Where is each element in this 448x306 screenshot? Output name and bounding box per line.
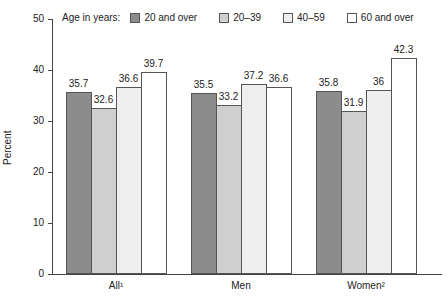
y-tick — [48, 121, 52, 122]
bar — [241, 84, 267, 274]
y-tick — [48, 172, 52, 173]
bar-value-label: 35.8 — [309, 77, 349, 88]
y-tick-label: 10 — [22, 217, 44, 228]
bar — [91, 108, 117, 274]
legend-swatch — [219, 13, 229, 23]
legend-title: Age in years: — [62, 12, 120, 23]
bar — [266, 87, 292, 274]
legend-item: 40–59 — [283, 12, 325, 23]
legend-label: 60 and over — [361, 12, 414, 23]
y-tick-label: 40 — [22, 64, 44, 75]
y-tick — [48, 223, 52, 224]
y-tick-label: 20 — [22, 166, 44, 177]
bar — [341, 111, 367, 274]
legend-item: 20 and over — [130, 12, 197, 23]
bar — [391, 58, 417, 274]
y-tick-label: 0 — [22, 268, 44, 279]
legend-item: 20–39 — [219, 12, 261, 23]
bar — [66, 92, 92, 274]
bar — [216, 105, 242, 274]
y-tick — [48, 274, 52, 275]
y-axis-label: Percent — [2, 131, 13, 165]
bar — [316, 91, 342, 274]
category-label: All¹ — [76, 280, 156, 291]
bar-value-label: 39.7 — [134, 58, 174, 69]
category-label: Men — [201, 280, 281, 291]
bar — [191, 93, 217, 274]
y-tick-label: 50 — [22, 13, 44, 24]
legend: Age in years:20 and over20–3940–5960 and… — [62, 12, 436, 23]
bar-value-label: 42.3 — [384, 44, 424, 55]
y-tick — [48, 70, 52, 71]
x-axis — [52, 274, 442, 275]
legend-swatch — [283, 13, 293, 23]
legend-swatch — [347, 13, 357, 23]
legend-label: 20 and over — [144, 12, 197, 23]
bar-value-label: 35.7 — [59, 78, 99, 89]
legend-label: 40–59 — [297, 12, 325, 23]
bar — [141, 72, 167, 274]
legend-item: 60 and over — [347, 12, 414, 23]
category-label: Women² — [326, 280, 406, 291]
bar-value-label: 36.6 — [259, 73, 299, 84]
bar — [366, 90, 392, 274]
legend-swatch — [130, 13, 140, 23]
bar-value-label: 35.5 — [184, 79, 224, 90]
y-tick — [48, 19, 52, 20]
bar — [116, 87, 142, 274]
legend-label: 20–39 — [233, 12, 261, 23]
y-axis — [52, 19, 53, 275]
y-tick-label: 30 — [22, 115, 44, 126]
